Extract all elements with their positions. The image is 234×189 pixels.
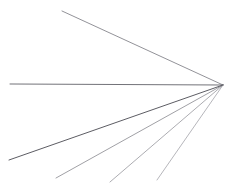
plot-background	[0, 0, 234, 189]
figure-canvas	[0, 0, 234, 189]
fan-diagram	[0, 0, 234, 189]
